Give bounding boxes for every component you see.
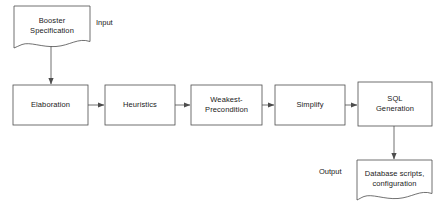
simplify-shape[interactable] xyxy=(275,85,345,125)
output-label: Output xyxy=(319,167,342,176)
elaboration-shape[interactable] xyxy=(13,85,88,125)
sql-generation-shape[interactable] xyxy=(358,82,432,126)
weakest-precondition-shape[interactable] xyxy=(191,85,262,125)
booster-specification-shape[interactable] xyxy=(14,6,90,48)
input-label: Input xyxy=(96,18,113,27)
flowchart-canvas: Booster Specification Elaboration Heuris… xyxy=(0,0,444,210)
heuristics-shape[interactable] xyxy=(105,85,175,125)
flowchart-graphics xyxy=(0,0,444,210)
database-scripts-shape[interactable] xyxy=(357,160,432,200)
